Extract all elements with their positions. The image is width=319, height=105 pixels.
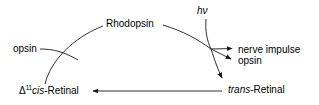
cis-retinal-configuration: cis [32,85,44,96]
label-cis-retinal: Δ11cis-Retinal [19,85,79,96]
label-opsin-input: opsin [13,44,37,54]
rhodopsin-cycle-diagram: Rhodopsin hν opsin nerve impulse opsin Δ… [0,0,319,105]
label-trans-retinal: trans-Retinal [228,85,285,95]
cis-retinal-name: -Retinal [44,85,78,96]
label-opsin-output: opsin [238,56,262,66]
trans-retinal-configuration: trans [228,84,250,95]
arc-opsin-input [40,49,78,60]
arrow-to-nerve-impulse [211,49,232,50]
cis-retinal-delta: Δ [19,85,26,96]
label-photon: hν [197,6,208,16]
trans-retinal-name: -Retinal [250,84,284,95]
arc-cis-to-rhodopsin [45,26,103,84]
arc-rhodopsin-to-junction [163,25,211,49]
label-rhodopsin: Rhodopsin [106,19,154,29]
arc-photon-to-junction [206,19,211,49]
label-nerve-impulse: nerve impulse [238,45,300,55]
